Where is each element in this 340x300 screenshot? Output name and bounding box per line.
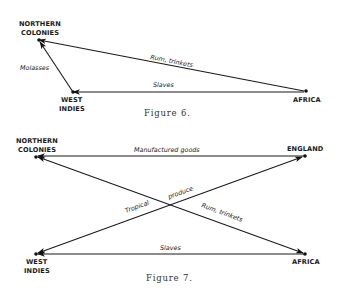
node-label-northern-colonies-line1: NORTHERN <box>19 20 61 28</box>
node-dot-northern-colonies <box>37 38 41 42</box>
node-label-west-indies-fig7-line1: WEST <box>26 258 48 266</box>
edge-label-tropical: Tropical <box>124 199 150 215</box>
edge-label-slaves-fig7: Slaves <box>160 244 181 252</box>
node-label-africa: AFRICA <box>293 96 321 104</box>
node-label-west-indies-line1: WEST <box>61 96 83 104</box>
edge-label-molasses: Molasses <box>20 64 50 72</box>
node-dot-england <box>303 154 307 158</box>
edge-label-rum-trinkets: Rum, trinkets <box>150 53 195 69</box>
node-dot-northern-colonies-fig7 <box>34 155 38 159</box>
node-label-northern-colonies-fig7-line1: NORTHERN <box>16 137 58 145</box>
node-dot-africa <box>304 89 308 93</box>
node-label-northern-colonies-fig7-line2: COLONIES <box>18 146 56 154</box>
figure-6: NORTHERN COLONIES WEST INDIES AFRICA Rum… <box>19 20 321 118</box>
node-label-england: ENGLAND <box>287 145 324 153</box>
edge-label-manufactured-goods: Manufactured goods <box>134 146 200 154</box>
node-dot-west-indies-fig7 <box>34 252 38 256</box>
triangular-trade-diagrams: NORTHERN COLONIES WEST INDIES AFRICA Rum… <box>0 0 340 300</box>
node-label-west-indies-line2: INDIES <box>59 105 85 113</box>
node-dot-africa-fig7 <box>303 252 307 256</box>
node-label-africa-fig7: AFRICA <box>292 258 320 266</box>
node-dot-west-indies <box>71 90 75 94</box>
figure-6-caption: Figure 6. <box>144 108 191 118</box>
figure-7-caption: Figure 7. <box>146 273 193 283</box>
edge-label-rum-trinkets-fig7: Rum, trinkets <box>200 201 244 224</box>
node-label-west-indies-fig7-line2: INDIES <box>24 267 50 275</box>
node-label-northern-colonies-line2: COLONIES <box>21 29 59 37</box>
figure-7: NORTHERN COLONIES ENGLAND WEST INDIES AF… <box>16 137 324 283</box>
edge-label-produce: produce <box>166 184 194 201</box>
edge-label-slaves: Slaves <box>153 81 174 89</box>
